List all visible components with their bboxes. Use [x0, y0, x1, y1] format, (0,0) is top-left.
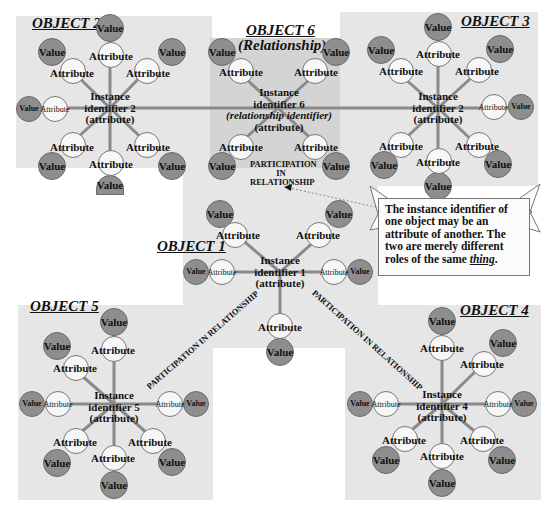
- instance-identifier-1: Instance identifier 1 (attribute): [254, 255, 305, 290]
- center-line: Instance: [254, 255, 305, 267]
- value-node[interactable]: Value: [38, 38, 66, 66]
- attribute-label: Attribute: [53, 436, 97, 448]
- value-node[interactable]: Value: [428, 307, 456, 335]
- instance-identifier-3: Instance identifier 2 (attribute): [412, 91, 463, 126]
- center-line: (attribute): [226, 122, 332, 134]
- center-line: (attribute): [84, 114, 135, 126]
- value-node[interactable]: Value: [158, 448, 186, 476]
- attribute-label: Attribute: [294, 66, 338, 78]
- attribute-label: Attribute: [382, 434, 426, 446]
- value-node[interactable]: Value: [322, 38, 350, 66]
- value-node[interactable]: Value: [16, 96, 42, 122]
- value-node[interactable]: Value: [43, 332, 71, 360]
- attribute-label: Attribute: [420, 342, 464, 354]
- attribute-label: Attribute: [460, 434, 504, 446]
- value-node[interactable]: Value: [347, 259, 373, 285]
- attribute-label: Attribute: [296, 229, 340, 241]
- center-line: (attribute): [88, 413, 139, 425]
- attribute-label: Attribute: [258, 321, 302, 333]
- attribute-label: Attribute: [479, 103, 508, 112]
- value-node[interactable]: Value: [158, 152, 186, 180]
- value-node[interactable]: Value: [322, 152, 350, 180]
- object-5-title: OBJECT 5: [30, 298, 99, 315]
- attribute-label: Attribute: [219, 141, 263, 153]
- center-line: (relationship identifier): [226, 110, 332, 122]
- pir-line: RELATIONSHIP: [250, 178, 312, 187]
- attribute-label: Attribute: [91, 452, 135, 464]
- attribute-label: Attribute: [320, 268, 349, 277]
- attribute-label: Attribute: [126, 67, 170, 79]
- attribute-label: Attribute: [91, 344, 135, 356]
- attribute-label: Attribute: [89, 158, 133, 170]
- object-3-title: OBJECT 3: [461, 13, 530, 30]
- value-node[interactable]: Value: [183, 391, 209, 417]
- value-node[interactable]: Value: [372, 446, 400, 474]
- object-2-title: OBJECT 2: [32, 15, 101, 32]
- value-node[interactable]: Value: [96, 14, 124, 42]
- value-node[interactable]: Value: [19, 391, 45, 417]
- attribute-label: Attribute: [379, 65, 423, 77]
- attribute-label: Attribute: [420, 450, 464, 462]
- value-node[interactable]: Value: [100, 471, 128, 499]
- attribute-label: Attribute: [460, 358, 504, 370]
- attribute-label: Attribute: [126, 141, 170, 153]
- value-node[interactable]: Value: [508, 94, 534, 120]
- value-node[interactable]: Value: [424, 172, 452, 200]
- attribute-label: Attribute: [41, 105, 70, 114]
- instance-identifier-6: Instance identifier 6 (relationship iden…: [226, 87, 332, 133]
- value-node[interactable]: Value: [488, 446, 516, 474]
- attribute-label: Attribute: [50, 141, 94, 153]
- object-6-subtitle: (Relationship): [238, 37, 326, 54]
- instance-identifier-4: Instance identifier 4 (attribute): [416, 389, 467, 424]
- attribute-label: Attribute: [219, 66, 263, 78]
- value-node[interactable]: Value: [489, 329, 517, 357]
- value-node[interactable]: Value: [183, 259, 209, 285]
- attribute-label: Attribute: [89, 50, 133, 62]
- attribute-label: Attribute: [484, 400, 513, 409]
- attribute-label: Attribute: [128, 436, 172, 448]
- attribute-label: Attribute: [208, 268, 237, 277]
- center-line: Instance: [84, 91, 135, 103]
- attribute-label: Attribute: [53, 362, 97, 374]
- center-line: (attribute): [416, 412, 467, 424]
- value-node[interactable]: Value: [158, 38, 186, 66]
- callout-period: .: [495, 253, 498, 265]
- instance-identifier-2: Instance identifier 2 (attribute): [84, 91, 135, 126]
- value-node[interactable]: Value: [428, 469, 456, 497]
- center-line: Instance: [226, 87, 332, 99]
- attribute-label: Attribute: [156, 400, 185, 409]
- attribute-label: Attribute: [44, 400, 73, 409]
- value-node[interactable]: Value: [43, 449, 71, 477]
- instance-identifier-5: Instance identifier 5 (attribute): [88, 390, 139, 425]
- attribute-label: Attribute: [416, 156, 460, 168]
- value-node[interactable]: Value: [100, 308, 128, 336]
- attribute-label: Attribute: [50, 67, 94, 79]
- attribute-label: Attribute: [216, 229, 260, 241]
- center-line: Instance: [88, 390, 139, 402]
- attribute-label: Attribute: [455, 140, 499, 152]
- attribute-label: Attribute: [294, 141, 338, 153]
- center-line: (attribute): [412, 114, 463, 126]
- value-node[interactable]: Value: [486, 35, 514, 63]
- value-node[interactable]: Value: [325, 200, 353, 228]
- value-node[interactable]: Value: [424, 13, 452, 41]
- value-node[interactable]: Value: [511, 391, 537, 417]
- center-line: Instance: [412, 91, 463, 103]
- center-line: Instance: [416, 389, 467, 401]
- value-node[interactable]: Value: [347, 391, 373, 417]
- attribute-label: Attribute: [379, 140, 423, 152]
- value-node[interactable]: Value: [38, 152, 66, 180]
- participation-in-relationship-label: PARTICIPATION IN RELATIONSHIP: [250, 160, 312, 187]
- callout-emphasis: thing: [470, 253, 495, 265]
- attribute-label: Attribute: [372, 400, 401, 409]
- center-line: (attribute): [254, 278, 305, 290]
- callout-banner: The instance identifier of one object ma…: [378, 198, 530, 276]
- value-node[interactable]: Value: [266, 338, 294, 366]
- value-node[interactable]: Value: [96, 175, 124, 195]
- value-node[interactable]: Value: [367, 36, 395, 64]
- object-4-title: OBJECT 4: [460, 302, 529, 319]
- attribute-label: Attribute: [416, 48, 460, 60]
- attribute-label: Attribute: [455, 65, 499, 77]
